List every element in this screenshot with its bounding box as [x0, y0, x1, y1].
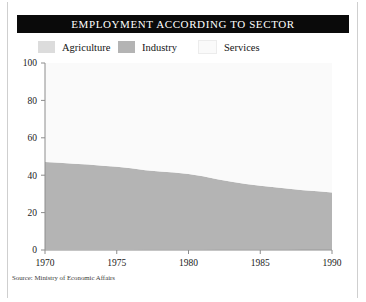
y-tick-label: 0 [32, 245, 37, 255]
plot-area: 02040608010019701975198019851990 [0, 0, 366, 302]
y-tick-label: 60 [28, 133, 38, 143]
y-tick-label: 20 [28, 208, 38, 218]
x-tick-label: 1975 [107, 258, 126, 268]
y-tick-label: 100 [23, 58, 38, 68]
y-tick-label: 80 [28, 96, 38, 106]
x-tick-label: 1980 [179, 258, 198, 268]
x-tick-label: 1970 [36, 258, 55, 268]
x-tick-label: 1990 [323, 258, 342, 268]
y-tick-label: 40 [28, 171, 38, 181]
chart-canvas: 02040608010019701975198019851990 [0, 0, 366, 302]
chart-figure: EMPLOYMENT ACCORDING TO SECTOR Agricultu… [0, 0, 366, 302]
source-note: Source: Ministry of Economic Affairs [12, 274, 115, 281]
x-tick-label: 1985 [251, 258, 270, 268]
